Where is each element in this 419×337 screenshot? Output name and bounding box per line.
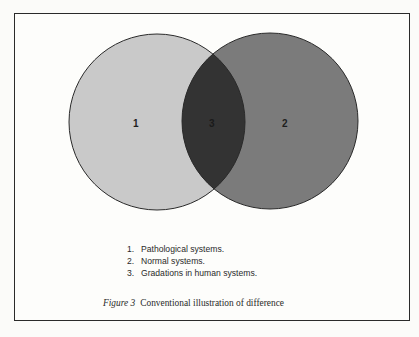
- legend-list: 1. Pathological systems. 2. Normal syste…: [127, 243, 257, 279]
- legend-item: 2. Normal systems.: [127, 255, 257, 267]
- label-2: 2: [282, 118, 288, 129]
- legend-text: Normal systems.: [141, 255, 205, 267]
- legend-number: 1.: [127, 243, 141, 255]
- caption-text: Conventional illustration of difference: [140, 298, 284, 308]
- label-1: 1: [133, 118, 139, 129]
- venn-diagram: 1 3 2: [0, 0, 419, 337]
- legend-number: 2.: [127, 255, 141, 267]
- legend-number: 3.: [127, 267, 141, 279]
- legend-item: 3. Gradations in human systems.: [127, 267, 257, 279]
- legend-text: Gradations in human systems.: [141, 267, 257, 279]
- figure-caption: Figure 3Conventional illustration of dif…: [103, 298, 284, 308]
- label-3: 3: [209, 118, 215, 129]
- legend-item: 1. Pathological systems.: [127, 243, 257, 255]
- figure-number: Figure 3: [103, 298, 135, 308]
- legend-text: Pathological systems.: [141, 243, 224, 255]
